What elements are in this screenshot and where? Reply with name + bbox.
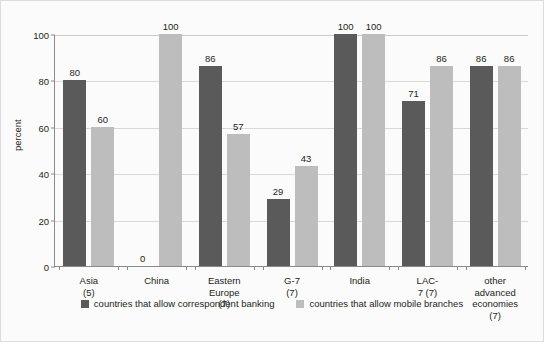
y-tick-label-80: 80 — [38, 76, 49, 87]
x-tick-mark — [457, 266, 458, 270]
x-tick-mark — [330, 266, 331, 270]
legend-label: countries that allow correspondent banki… — [94, 298, 275, 309]
y-axis-title: percent — [12, 119, 23, 151]
y-tick-label-100: 100 — [33, 30, 49, 41]
bar[interactable]: 43 — [295, 166, 318, 266]
x-axis-category-label: G-7 (7) — [279, 275, 305, 298]
y-tick-mark-0 — [51, 267, 55, 268]
bar-value-label: 43 — [301, 153, 312, 164]
bar-group: 7186LAC-7 (7) — [402, 35, 453, 266]
bar-value-label: 86 — [476, 53, 487, 64]
bar[interactable]: 86 — [498, 66, 521, 266]
x-axis-category-label: China — [144, 275, 169, 287]
x-tick-mark — [59, 266, 60, 270]
bar-value-label: 57 — [233, 121, 244, 132]
y-tick-mark-80 — [51, 81, 55, 82]
plot-area: 0204060801008060Asia (5)0100China8657Eas… — [54, 35, 528, 267]
bar[interactable]: 86 — [470, 66, 493, 266]
x-tick-mark — [127, 266, 128, 270]
bar-group: 2943G-7 (7) — [267, 35, 318, 266]
bar-value-label: 60 — [98, 114, 109, 125]
bar-group: 100100India — [334, 35, 385, 266]
legend-swatch-icon — [296, 300, 304, 308]
y-tick-label-20: 20 — [38, 215, 49, 226]
legend-swatch-icon — [81, 300, 89, 308]
bar[interactable]: 57 — [227, 134, 250, 266]
bar-group: 0100China — [131, 35, 182, 266]
bar-value-label: 100 — [366, 21, 382, 32]
x-tick-mark — [186, 266, 187, 270]
bar[interactable]: 100 — [334, 34, 357, 266]
legend-item[interactable]: countries that allow mobile branches — [296, 298, 463, 309]
bar-value-label: 86 — [205, 53, 216, 64]
bar-value-label: 86 — [436, 53, 447, 64]
y-tick-mark-100 — [51, 35, 55, 36]
bar-value-label: 29 — [273, 186, 284, 197]
bar-value-label: 100 — [163, 21, 179, 32]
x-tick-mark — [254, 266, 255, 270]
bar[interactable]: 80 — [63, 80, 86, 266]
bar-value-label: 80 — [70, 67, 81, 78]
bar[interactable]: 86 — [199, 66, 222, 266]
x-tick-mark — [118, 266, 119, 270]
bar-value-label: 0 — [140, 253, 145, 264]
bar[interactable]: 60 — [91, 127, 114, 266]
chart-legend: countries that allow correspondent banki… — [1, 298, 543, 309]
x-axis-category-label: LAC-7 (7) — [415, 275, 441, 298]
x-axis-category-label: India — [349, 275, 370, 287]
y-tick-mark-40 — [51, 174, 55, 175]
x-tick-mark — [322, 266, 323, 270]
y-tick-mark-20 — [51, 220, 55, 221]
y-tick-label-60: 60 — [38, 122, 49, 133]
bar-group: 8060Asia (5) — [63, 35, 114, 266]
legend-item[interactable]: countries that allow correspondent banki… — [81, 298, 275, 309]
bar-chart-figure: percent 0204060801008060Asia (5)0100Chin… — [0, 0, 544, 342]
x-tick-mark — [525, 266, 526, 270]
legend-label: countries that allow mobile branches — [309, 298, 463, 309]
bar-group: 8686other advanced economies (7) — [470, 35, 521, 266]
bar-value-label: 86 — [504, 53, 515, 64]
x-axis-category-label: Asia (5) — [76, 275, 102, 298]
bar[interactable]: 29 — [267, 199, 290, 266]
bar-value-label: 100 — [338, 21, 354, 32]
x-tick-mark — [389, 266, 390, 270]
x-tick-mark — [466, 266, 467, 270]
x-tick-mark — [398, 266, 399, 270]
y-tick-mark-60 — [51, 127, 55, 128]
bar[interactable]: 100 — [159, 34, 182, 266]
y-tick-label-40: 40 — [38, 169, 49, 180]
bar-group: 8657Eastern Europe (7) — [199, 35, 250, 266]
bar-value-label: 71 — [408, 88, 419, 99]
bar[interactable]: 86 — [430, 66, 453, 266]
y-tick-label-0: 0 — [44, 262, 49, 273]
x-tick-mark — [195, 266, 196, 270]
bar[interactable]: 71 — [402, 101, 425, 266]
x-tick-mark — [263, 266, 264, 270]
bar[interactable]: 100 — [362, 34, 385, 266]
